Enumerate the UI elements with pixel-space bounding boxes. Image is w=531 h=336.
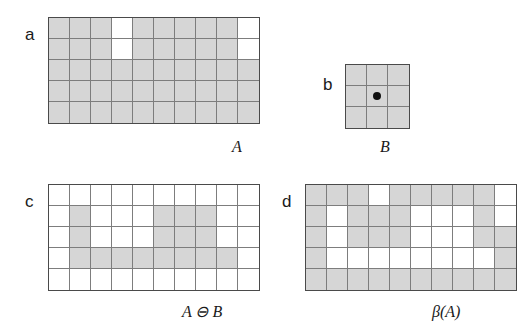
grid-cell bbox=[112, 227, 133, 248]
grid-boundary-beta-a bbox=[305, 184, 517, 291]
grid-cell bbox=[70, 102, 91, 123]
grid-cell bbox=[369, 227, 390, 248]
grid-cell bbox=[369, 248, 390, 269]
grid-cell bbox=[112, 185, 133, 206]
grid-cell bbox=[91, 60, 112, 81]
grid-cell bbox=[175, 248, 196, 269]
grid-cell bbox=[388, 86, 409, 107]
grid-cell bbox=[432, 248, 453, 269]
grid-cell bbox=[453, 269, 474, 290]
grid-cell bbox=[238, 102, 259, 123]
grid-cell bbox=[390, 206, 411, 227]
grid-cell bbox=[154, 60, 175, 81]
grid-cell bbox=[133, 248, 154, 269]
grid-cell bbox=[70, 269, 91, 290]
grid-cell bbox=[154, 39, 175, 60]
grid-cell bbox=[306, 185, 327, 206]
grid-cell bbox=[91, 227, 112, 248]
grid-cell bbox=[390, 227, 411, 248]
grid-cell bbox=[367, 86, 388, 107]
grid-cell bbox=[348, 227, 369, 248]
grid-cell bbox=[196, 269, 217, 290]
grid-cell bbox=[133, 185, 154, 206]
grid-cell bbox=[474, 269, 495, 290]
grid-cell bbox=[238, 227, 259, 248]
grid-cell bbox=[112, 18, 133, 39]
grid-cell bbox=[112, 206, 133, 227]
grid-structuring-element-b bbox=[345, 64, 410, 129]
grid-cell bbox=[196, 81, 217, 102]
caption-structuring-element-b: B bbox=[380, 139, 390, 155]
grid-cell bbox=[348, 248, 369, 269]
grid-cell bbox=[175, 269, 196, 290]
grid-cell bbox=[175, 206, 196, 227]
grid-cell bbox=[306, 269, 327, 290]
grid-cell bbox=[133, 81, 154, 102]
grid-cell bbox=[411, 269, 432, 290]
grid-cell bbox=[91, 81, 112, 102]
grid-cell bbox=[154, 269, 175, 290]
grid-cell bbox=[474, 206, 495, 227]
grid-cell bbox=[49, 39, 70, 60]
grid-cell bbox=[49, 248, 70, 269]
grid-cell bbox=[432, 269, 453, 290]
grid-cell bbox=[112, 269, 133, 290]
grid-cell bbox=[432, 185, 453, 206]
grid-cell bbox=[327, 206, 348, 227]
grid-cell bbox=[154, 248, 175, 269]
grid-cell bbox=[91, 185, 112, 206]
grid-cell bbox=[49, 227, 70, 248]
grid-cell bbox=[495, 185, 516, 206]
panel-letter-a: a bbox=[25, 26, 34, 43]
grid-cell bbox=[70, 206, 91, 227]
grid-cell bbox=[369, 269, 390, 290]
grid-cell bbox=[217, 39, 238, 60]
grid-cell bbox=[388, 107, 409, 128]
grid-erosion-a-minus-b bbox=[48, 184, 260, 291]
grid-cell bbox=[49, 18, 70, 39]
grid-cell bbox=[367, 107, 388, 128]
grid-cell bbox=[432, 227, 453, 248]
grid-cell bbox=[133, 18, 154, 39]
grid-cell bbox=[217, 248, 238, 269]
grid-cell bbox=[112, 60, 133, 81]
caption-boundary-beta-a: β(A) bbox=[432, 304, 460, 320]
grid-cell bbox=[217, 18, 238, 39]
grid-set-a bbox=[48, 17, 260, 124]
grid-cell bbox=[175, 18, 196, 39]
grid-cell bbox=[217, 81, 238, 102]
grid-cell bbox=[154, 227, 175, 248]
grid-cell bbox=[112, 248, 133, 269]
grid-cell bbox=[348, 185, 369, 206]
grid-cell bbox=[411, 185, 432, 206]
grid-cell bbox=[49, 269, 70, 290]
grid-cell bbox=[238, 18, 259, 39]
grid-cell bbox=[175, 227, 196, 248]
grid-cell bbox=[238, 60, 259, 81]
grid-cell bbox=[91, 269, 112, 290]
grid-cell bbox=[217, 206, 238, 227]
grid-cell bbox=[474, 248, 495, 269]
grid-cell bbox=[411, 248, 432, 269]
grid-cell bbox=[196, 39, 217, 60]
grid-cell bbox=[327, 227, 348, 248]
grid-cell bbox=[133, 102, 154, 123]
grid-cell bbox=[390, 185, 411, 206]
grid-cell bbox=[196, 102, 217, 123]
grid-cell bbox=[238, 81, 259, 102]
grid-cell bbox=[238, 248, 259, 269]
grid-cell bbox=[411, 227, 432, 248]
grid-cell bbox=[175, 81, 196, 102]
grid-cell bbox=[367, 65, 388, 86]
grid-cell bbox=[112, 81, 133, 102]
grid-cell bbox=[217, 269, 238, 290]
grid-cell bbox=[369, 206, 390, 227]
origin-dot-icon bbox=[373, 92, 381, 100]
grid-cell bbox=[453, 185, 474, 206]
grid-cell bbox=[49, 206, 70, 227]
grid-cell bbox=[453, 227, 474, 248]
grid-cell bbox=[369, 185, 390, 206]
grid-cell bbox=[91, 39, 112, 60]
grid-cell bbox=[133, 227, 154, 248]
grid-cell bbox=[306, 227, 327, 248]
